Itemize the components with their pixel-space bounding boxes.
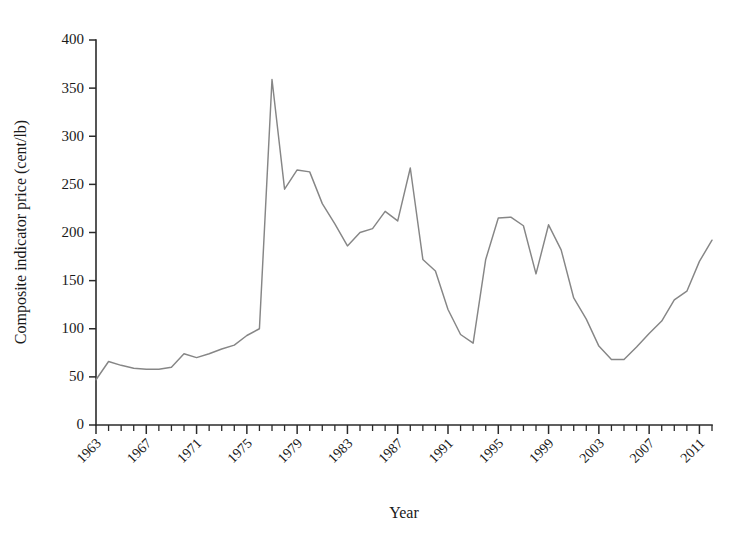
y-tick-label: 100	[62, 320, 85, 336]
x-tick-label: 1995	[476, 436, 506, 466]
price-series-line	[96, 79, 712, 379]
y-tick-label: 0	[77, 416, 85, 432]
x-tick-label: 1983	[325, 436, 355, 466]
y-axis-tick-labels: 050100150200250300350400	[62, 31, 85, 432]
x-tick-label: 1967	[124, 436, 154, 466]
y-axis-title: Composite indicator price (cent/lb)	[12, 120, 30, 344]
x-tick-label: 1999	[526, 436, 556, 466]
y-tick-label: 200	[62, 224, 85, 240]
y-tick-label: 350	[62, 80, 85, 96]
line-chart: 050100150200250300350400 196319671971197…	[0, 0, 730, 535]
x-tick-label: 2003	[577, 436, 607, 466]
x-tick-label: 1971	[174, 436, 204, 466]
x-axis-ticks	[96, 425, 712, 434]
x-tick-label: 2007	[627, 436, 657, 466]
y-tick-label: 250	[62, 176, 85, 192]
x-tick-label: 1987	[375, 436, 405, 466]
x-axis-title: Year	[389, 504, 419, 521]
y-tick-label: 400	[62, 31, 85, 47]
y-tick-label: 50	[69, 368, 84, 384]
x-tick-label: 2011	[678, 436, 708, 466]
y-axis-ticks	[89, 40, 96, 425]
x-axis-tick-labels: 1963196719711975197919831987199119951999…	[74, 436, 708, 466]
y-tick-label: 150	[62, 272, 85, 288]
x-tick-label: 1963	[74, 436, 104, 466]
chart-figure: 050100150200250300350400 196319671971197…	[0, 0, 730, 535]
y-tick-label: 300	[62, 128, 85, 144]
x-tick-label: 1979	[275, 436, 305, 466]
x-tick-label: 1975	[225, 436, 255, 466]
x-tick-label: 1991	[426, 436, 456, 466]
